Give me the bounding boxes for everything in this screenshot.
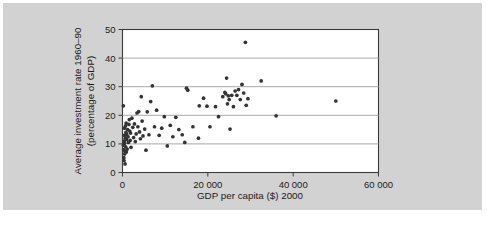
data-point [246,97,250,101]
data-point [177,128,181,132]
data-point [240,83,244,87]
data-point [165,144,169,148]
data-point [127,123,131,127]
data-point [183,141,187,145]
data-point [128,139,132,143]
data-point [186,88,190,92]
data-point [145,110,149,114]
data-point [202,96,206,100]
data-point [191,125,195,129]
y-tick-label-40: 40 [105,53,116,64]
data-point [139,95,143,99]
y-tick-label-20: 20 [105,110,116,121]
plot-frame [123,30,379,173]
data-point [197,136,201,140]
data-point [133,140,137,144]
x-tick-label-20000: 20 000 [193,179,222,190]
y-axis-ticks: 01020304050 [105,24,123,178]
data-point [238,98,242,102]
data-point [226,102,230,106]
data-point [168,123,172,127]
data-point [233,89,237,93]
data-point [208,125,212,129]
data-point [144,148,148,152]
data-point [147,133,151,137]
y-tick-label-10: 10 [105,138,116,149]
y-tick-label-30: 30 [105,81,116,92]
data-point [151,84,155,88]
data-point [162,115,166,119]
data-point [123,162,127,166]
figure-container: 01020304050 020 00040 00060 000 Average … [0,0,487,227]
y-axis-title-line1: Average investment rate 1960–90 [72,27,83,174]
data-point [180,133,184,137]
data-point [274,114,278,118]
data-point [134,132,138,136]
data-point [244,41,248,45]
x-tick-label-60000: 60 000 [364,179,393,190]
data-point [122,159,126,163]
figure-panel: 01020304050 020 00040 00060 000 Average … [3,3,482,210]
y-tick-label-0: 0 [110,167,115,178]
data-point [132,136,136,140]
data-point [237,88,241,92]
data-point [244,103,248,107]
data-point [137,110,141,114]
data-point [138,130,142,134]
x-tick-label-0: 0 [120,179,125,190]
x-axis-title: GDP per capita ($) 2000 [197,190,304,201]
data-point [235,93,239,97]
data-point [226,94,230,98]
data-point [217,115,221,119]
x-axis-ticks: 020 00040 00060 000 [120,173,393,190]
data-point [139,137,143,141]
data-point [157,133,161,137]
data-point [225,76,229,80]
data-point [334,99,338,103]
data-point [221,95,225,99]
data-point [121,104,125,108]
data-point [143,127,147,131]
data-point [214,105,218,109]
scatter-plot: 01020304050 020 00040 00060 000 Average … [3,3,482,210]
data-point [205,104,209,108]
data-point [230,93,234,97]
data-point [140,119,144,123]
data-point [242,91,246,95]
y-axis-title-line2: (percentage of GDP) [85,56,96,146]
data-point [232,105,236,109]
data-point [197,104,201,108]
data-point [228,127,232,131]
data-point [155,108,159,112]
data-point [259,79,263,83]
data-point [149,100,153,104]
data-point [126,135,130,139]
data-point [171,135,175,139]
data-point [131,125,135,129]
x-tick-label-40000: 40 000 [279,179,308,190]
data-point [123,141,127,145]
data-point [130,116,134,120]
data-point [129,145,133,149]
data-point [227,98,231,102]
data-point [136,125,140,129]
data-point [160,126,164,130]
data-point [125,147,129,151]
data-point [133,122,137,126]
y-tick-label-50: 50 [105,24,116,35]
data-point [129,131,133,135]
data-point [153,125,157,129]
data-point [174,115,178,119]
data-point [141,134,145,138]
